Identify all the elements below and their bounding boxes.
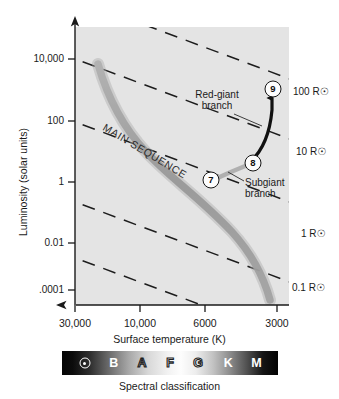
x-axis-ticks: [75, 305, 277, 312]
evolution-point-8[interactable]: 8: [245, 155, 262, 172]
radius-label-1-rsun: 1 R☉: [301, 229, 326, 239]
subgiant-branch-label-line2: branch: [245, 188, 276, 199]
x-axis-title: Surface temperature (K): [0, 334, 339, 345]
x-tick-label-6000: 6000: [193, 318, 216, 329]
evolution-point-7[interactable]: 7: [203, 172, 220, 189]
red-giant-branch-label: Red-giant branch: [186, 89, 248, 111]
radius-label-10-rsun: 10 R☉: [296, 147, 326, 157]
radius-label-100-text: 100 R: [293, 86, 320, 97]
spectral-classification-bar: B A F G K M: [62, 351, 278, 375]
red-giant-branch-label-line1: Red-giant: [195, 89, 238, 100]
radius-label-10-text: 10 R: [296, 146, 317, 157]
radius-label-1-text: 1 R: [301, 228, 317, 239]
spectral-class-M: M: [251, 357, 261, 370]
spectral-class-G: G: [193, 357, 203, 370]
y-axis-title: Luminosity (solar units): [17, 122, 29, 242]
spectral-class-B: B: [109, 357, 118, 370]
radius-label-0.1-text: 0.1 R: [292, 282, 316, 293]
y-axis-ticks: [68, 59, 75, 290]
hr-diagram-figure: 10,000 100 1 0.01 .0001 Luminosity (sola…: [0, 0, 339, 399]
x-axis-arrow: [56, 301, 67, 309]
subgiant-branch-label-line1: Subgiant: [245, 177, 284, 188]
red-giant-branch-label-line2: branch: [202, 100, 233, 111]
spectral-class-K: K: [224, 357, 233, 370]
x-tick-label-3000: 3000: [265, 318, 288, 329]
spectral-class-A: A: [137, 357, 146, 370]
sun-symbol-icon: ☉: [320, 86, 329, 97]
subgiant-branch-label: Subgiant branch: [245, 177, 301, 199]
evolution-point-9[interactable]: 9: [265, 81, 282, 98]
sun-disc-icon: [79, 358, 90, 369]
spectral-classification-caption: Spectral classification: [0, 381, 339, 392]
sun-symbol-icon: ☉: [317, 146, 326, 157]
sun-symbol-icon: ☉: [317, 228, 326, 239]
x-tick-label-10000: 10,000: [124, 318, 156, 329]
y-tick-label-10000: 10,000: [8, 54, 64, 64]
radius-label-100-rsun: 100 R☉: [293, 87, 329, 97]
radius-label-0.1-rsun: 0.1 R☉: [292, 283, 325, 293]
sun-symbol-icon: ☉: [316, 282, 325, 293]
y-tick-label-0.0001: .0001: [8, 285, 64, 295]
x-tick-label-30000: 30,000: [59, 318, 91, 329]
spectral-class-F: F: [166, 357, 174, 370]
